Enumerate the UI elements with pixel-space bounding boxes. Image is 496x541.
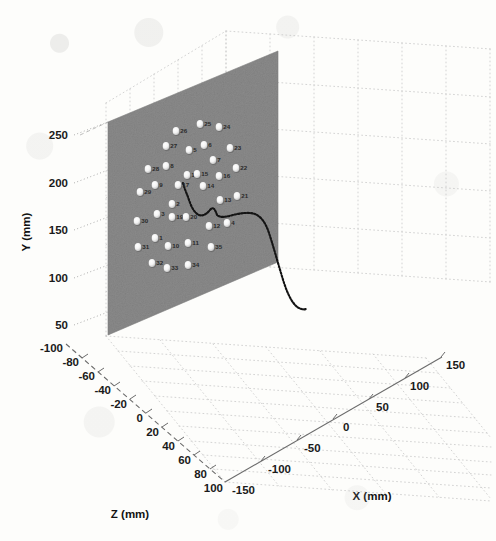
marker-label: 33 — [171, 264, 178, 271]
marker-dot — [184, 171, 191, 179]
x-tick-0: 0 — [343, 421, 349, 433]
marker-dot — [216, 123, 223, 131]
marker-dot — [185, 261, 192, 269]
z-tick-40: 40 — [162, 440, 175, 452]
marker-dot — [137, 188, 144, 196]
marker-label: 15 — [201, 170, 208, 177]
marker-label: 5 — [193, 146, 197, 153]
marker-dot — [163, 162, 170, 170]
marker-dot — [200, 182, 207, 190]
marker-dot — [165, 242, 172, 250]
x-tick--50: -50 — [304, 442, 321, 454]
marker-label: 26 — [180, 127, 187, 134]
marker-label: 19 — [176, 213, 183, 220]
marker-dot — [152, 234, 159, 242]
marker-dot — [145, 165, 152, 173]
marker-label: 34 — [192, 261, 199, 268]
z-tick--60: -60 — [78, 370, 95, 382]
marker-label: 1 — [159, 234, 163, 241]
marker-label: 21 — [241, 192, 248, 199]
figure-3d-plot: 250 200 150 100 50 Y (mm) -100 -80 — [0, 0, 496, 541]
marker-label: 20 — [190, 213, 197, 220]
marker-dot — [208, 243, 215, 251]
marker-dot — [234, 192, 241, 200]
z-tick--100: -100 — [40, 342, 63, 354]
marker-dot — [224, 219, 231, 227]
z-tick-60: 60 — [178, 454, 191, 466]
marker-label: 29 — [144, 188, 151, 195]
marker-label: 30 — [141, 217, 148, 224]
y-tick-250: 250 — [49, 129, 68, 141]
x-tick-150: 150 — [446, 359, 465, 371]
marker-dot — [169, 213, 176, 221]
marker-label: 4 — [231, 219, 235, 226]
marker-label: 13 — [224, 196, 231, 203]
marker-dot — [135, 243, 142, 251]
x-axis-title: X (mm) — [353, 490, 392, 502]
z-axis-title: Z (mm) — [111, 508, 150, 520]
marker-dot — [216, 172, 223, 180]
marker-dot — [186, 146, 193, 154]
marker-dot — [210, 156, 217, 164]
z-tick--80: -80 — [62, 356, 79, 368]
axis-x: -150 -100 -50 0 50 100 150 X (mm) — [225, 352, 465, 502]
marker-dot — [175, 181, 182, 189]
marker-dot — [227, 144, 234, 152]
y-tick-150: 150 — [49, 224, 68, 236]
marker-label: 24 — [223, 123, 230, 130]
marker-dot — [163, 142, 170, 150]
marker-dot — [217, 196, 224, 204]
x-tick-100: 100 — [410, 380, 429, 392]
marker-dot — [233, 164, 240, 172]
marker-dot — [183, 213, 190, 221]
marker-dot — [197, 120, 204, 128]
marker-label: 10 — [172, 242, 179, 249]
y-axis-title: Y (mm) — [20, 212, 32, 251]
marker-label: 23 — [234, 144, 241, 151]
y-tick-100: 100 — [49, 272, 68, 284]
marker-dot — [152, 181, 159, 189]
marker-dot — [169, 200, 176, 208]
marker-label: 7 — [217, 156, 221, 163]
z-tick-20: 20 — [146, 426, 159, 438]
marker-dot — [154, 210, 161, 218]
marker-dot — [164, 264, 171, 272]
marker-label: 28 — [152, 165, 159, 172]
marker-label: 35 — [215, 243, 222, 250]
x-tick--100: -100 — [268, 463, 291, 475]
marker-label: 9 — [159, 181, 163, 188]
axis-z: -100 -80 -60 -40 -20 0 20 40 60 80 100 Z… — [40, 342, 225, 520]
y-tick-50: 50 — [55, 319, 68, 331]
marker-dot — [206, 222, 213, 230]
y-tick-200: 200 — [49, 177, 68, 189]
marker-label: 22 — [240, 164, 247, 171]
marker-dot — [149, 259, 156, 267]
marker-dot — [185, 239, 192, 247]
z-tick-0: 0 — [137, 412, 143, 424]
marker-label: 2 — [176, 200, 180, 207]
marker-label: 17 — [182, 181, 189, 188]
marker-dot — [194, 170, 201, 178]
marker-dot — [201, 141, 208, 149]
marker-label: 16 — [223, 172, 230, 179]
x-tick--150: -150 — [232, 484, 255, 496]
marker-label: 14 — [207, 182, 214, 189]
marker-label: 8 — [170, 162, 174, 169]
marker-label: 25 — [204, 120, 211, 127]
marker-label: 32 — [156, 259, 163, 266]
plot-canvas: 250 200 150 100 50 Y (mm) -100 -80 — [0, 0, 496, 541]
z-tick-100: 100 — [204, 482, 223, 494]
calibration-plate — [108, 51, 278, 335]
axis-y: 250 200 150 100 50 Y (mm) — [20, 122, 108, 331]
marker-label: 11 — [192, 239, 199, 246]
marker-label: 31 — [142, 243, 149, 250]
marker-label: 3 — [161, 210, 165, 217]
z-tick--20: -20 — [110, 398, 127, 410]
marker-label: 6 — [208, 141, 212, 148]
z-tick-80: 80 — [194, 468, 207, 480]
marker-dot — [173, 127, 180, 135]
marker-label: 12 — [213, 222, 220, 229]
z-tick--40: -40 — [94, 384, 111, 396]
marker-dot — [134, 217, 141, 225]
marker-label: 27 — [170, 142, 177, 149]
